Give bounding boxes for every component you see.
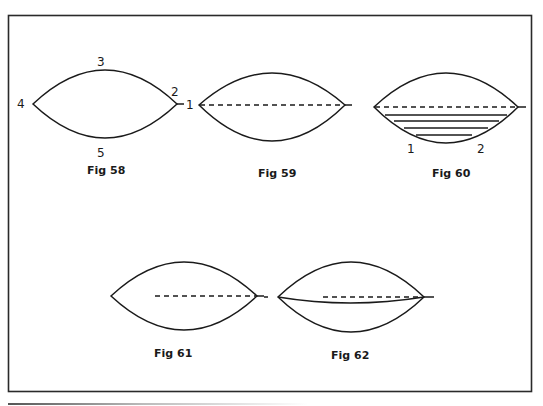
- point-label-5: 5: [97, 146, 105, 160]
- figure-60: 1 2 Fig 60: [374, 73, 526, 180]
- figure-61: Fig 61: [111, 262, 264, 360]
- lens-shape: [374, 73, 518, 143]
- figure-caption: Fig 60: [432, 167, 471, 180]
- point-label-1: 1: [186, 98, 194, 112]
- bottom-rule: [8, 403, 308, 405]
- figure-62: Fig 62: [264, 262, 434, 362]
- point-label-4: 4: [17, 97, 25, 111]
- lens-shape: [33, 70, 177, 138]
- figure-caption: Fig 58: [87, 164, 125, 177]
- point-label-3: 3: [97, 55, 105, 69]
- figure-58: 3 4 2 1 5 Fig 58: [17, 55, 194, 177]
- figure-59: Fig 59: [199, 73, 352, 180]
- point-label-2: 2: [171, 85, 179, 99]
- figure-caption: Fig 61: [154, 347, 192, 360]
- point-label-1: 1: [407, 142, 415, 156]
- curved-chord: [278, 297, 424, 303]
- diagram-canvas: 3 4 2 1 5 Fig 58 Fig 59 1 2 Fig 60 Fig 6…: [0, 0, 543, 406]
- figure-caption: Fig 59: [258, 167, 296, 180]
- figure-caption: Fig 62: [331, 349, 369, 362]
- lens-shape: [199, 73, 345, 141]
- point-label-2: 2: [477, 142, 485, 156]
